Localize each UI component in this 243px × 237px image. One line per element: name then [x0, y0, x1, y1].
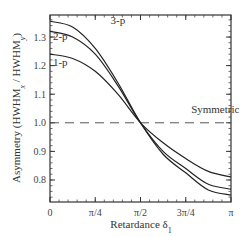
x-axis-label: Retardance δ1	[110, 218, 171, 235]
x-tick-label: π	[228, 207, 233, 218]
asymmetry-chart: 0.80.91.01.11.21.3 0π/4π/23π/4π 3-p2-p1-…	[0, 0, 243, 237]
y-tick-label: 1.1	[34, 89, 47, 100]
annotation-3-p: 3-p	[110, 14, 125, 26]
y-tick-label: 1.0	[34, 117, 47, 128]
y-tick-label: 1.3	[34, 32, 47, 43]
annotation-1-p: 1-p	[53, 56, 68, 68]
y-tick-label: 0.9	[34, 146, 47, 157]
annotation-2-p: 2-p	[53, 30, 68, 42]
y-axis-label: Asymmetry (HWHMx / HWHMy)	[10, 33, 27, 183]
x-tick-label: π/4	[89, 207, 102, 218]
y-tick-label: 1.2	[34, 60, 47, 71]
x-axis-ticks: 0π/4π/23π/4π	[48, 15, 234, 218]
annotation-symmetric: Symmetric	[191, 103, 239, 115]
y-tick-label: 0.8	[34, 174, 47, 185]
x-tick-label: π/2	[134, 207, 147, 218]
x-tick-label: 3π/4	[177, 207, 195, 218]
annotations: 3-p2-p1-pSymmetric	[53, 14, 240, 115]
x-tick-label: 0	[48, 207, 53, 218]
curve-1-p	[50, 54, 231, 177]
